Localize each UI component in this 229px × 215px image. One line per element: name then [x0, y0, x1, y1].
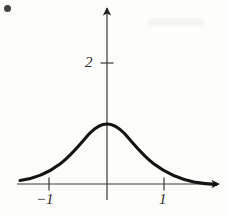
bell-curve-path: [20, 124, 216, 184]
figure-canvas: 2 −1 1: [0, 0, 229, 215]
x-tick-label-neg1: −1: [36, 192, 54, 207]
y-tick-label-2: 2: [85, 55, 93, 70]
plot-svg: [0, 0, 229, 215]
x-tick-label-1: 1: [159, 192, 167, 207]
